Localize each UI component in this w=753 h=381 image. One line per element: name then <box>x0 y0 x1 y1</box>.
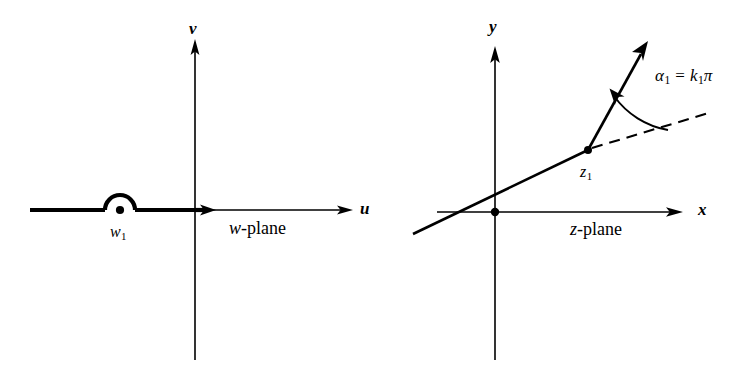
z-plane-x-axis-label: x <box>698 201 707 218</box>
w-plane-v-axis-label: v <box>189 20 197 37</box>
z1-subscript: 1 <box>586 170 592 182</box>
k-symbol: k <box>690 66 698 85</box>
z-plane-point-z1-dot <box>584 146 592 154</box>
equals-sign: = <box>670 66 690 85</box>
w-plane-group <box>30 39 353 360</box>
z-plane-y-axis-label: y <box>489 18 497 35</box>
z-plane-origin-dot <box>491 208 499 216</box>
z-plane-incoming-ray <box>413 150 588 234</box>
w-plane-point-w1-dot <box>116 206 124 214</box>
figure-root: v u w1 w-plane y x z1 z-plane α1=k1π <box>0 0 753 381</box>
w1-subscript: 1 <box>121 230 127 242</box>
w-plane-caption-italic: w <box>229 218 241 238</box>
w-plane-caption-rest: -plane <box>241 218 286 238</box>
figure-canvas <box>0 0 753 381</box>
w1-base: w <box>110 223 121 240</box>
w-plane-caption: w-plane <box>229 219 286 237</box>
w-plane-u-axis-label: u <box>360 200 369 217</box>
z-plane-angle-equation: α1=k1π <box>655 67 712 87</box>
z-plane-angle-arc <box>614 96 668 130</box>
z-plane-caption: z-plane <box>570 220 622 238</box>
z-plane-dashed-extension <box>592 112 712 148</box>
alpha-symbol: α <box>655 66 664 85</box>
w-plane-point-w1-label: w1 <box>110 224 127 242</box>
z-plane-angle-arc-arrowhead <box>610 89 625 106</box>
z-plane-group <box>413 41 712 360</box>
z-plane-caption-italic: z <box>570 219 577 239</box>
pi-symbol: π <box>704 66 713 85</box>
z-plane-caption-rest: -plane <box>577 219 622 239</box>
z-plane-point-z1-label: z1 <box>580 164 592 182</box>
